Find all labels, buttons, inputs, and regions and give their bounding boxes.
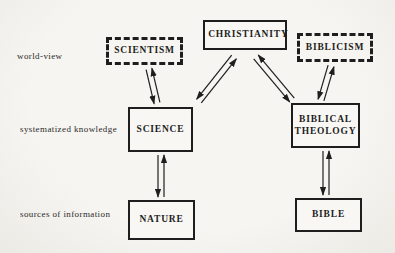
row-label-systematized-knowledge: systematized knowledge [20,124,117,134]
edge-christianity-science [197,55,232,99]
node-biblical-theology-box: BIBLICAL THEOLOGY [291,103,360,148]
node-christianity-label: CHRISTIANITY [208,29,282,40]
node-bible-label: BIBLE [312,209,345,220]
node-christianity-box: CHRISTIANITY [203,20,287,50]
edge-christianity-biblical-theology [254,59,290,102]
node-nature-label: NATURE [139,214,183,225]
node-biblicism-box: BIBLICISM [297,33,373,62]
node-scientism-box: SCIENTISM [106,37,183,65]
node-biblicism-label: BIBLICISM [306,42,364,53]
row-label-world-view: world-view [17,51,63,61]
node-nature-box: NATURE [128,200,195,240]
node-science-box: SCIENCE [128,107,193,152]
edge-biblicism-biblical-theology [324,67,334,101]
node-bible-box: BIBLE [295,198,362,232]
node-biblical-theology-label: BIBLICAL THEOLOGY [295,114,357,137]
edge-biblicism-biblical-theology [318,65,328,99]
diagram-canvas: world-view systematized knowledge source… [0,0,395,253]
edge-christianity-biblical-theology [258,55,294,98]
edge-christianity-science [201,59,236,103]
node-scientism-label: SCIENTISM [114,45,175,56]
node-science-label: SCIENCE [137,124,185,135]
row-label-sources-of-information: sources of information [20,209,110,219]
